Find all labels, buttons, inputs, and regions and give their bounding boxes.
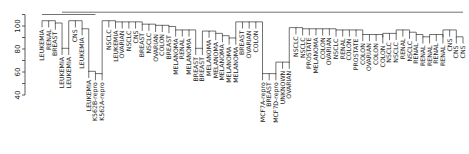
- y-tick-label: 100: [14, 19, 22, 32]
- y-tick-label: 40: [14, 91, 22, 100]
- y-tick-label: 80: [14, 45, 22, 54]
- leaf-label: OVARIAN: [285, 70, 292, 98]
- leaf-label: CNS: [459, 45, 466, 58]
- y-axis: 406080100: [14, 15, 25, 100]
- leaf-label: LEUKEMIA: [78, 37, 85, 69]
- leaf-label: LEUKEMIA: [65, 56, 72, 88]
- leaf-label: COLON: [252, 30, 259, 52]
- leaf-label: K562A-repro: [98, 82, 106, 121]
- leaf-label: BREAST: [51, 31, 58, 56]
- y-tick-label: 60: [14, 68, 22, 77]
- dendrogram-chart: 406080100 LEUKEMIARENALBREASTLEUKEMIALEU…: [0, 0, 469, 154]
